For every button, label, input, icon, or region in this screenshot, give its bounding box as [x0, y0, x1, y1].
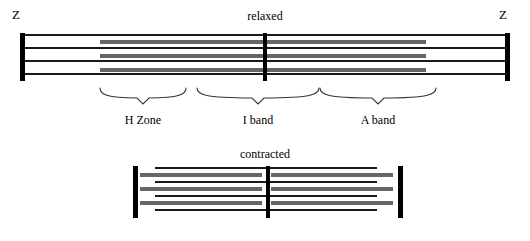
a-band-label: A band: [320, 114, 436, 126]
contracted-z-line-right: [398, 166, 403, 218]
brace-a-band: [320, 88, 436, 104]
z-line-label-left: Z: [12, 8, 20, 21]
z-line-label-right: Z: [499, 8, 507, 21]
thick-filament: [140, 201, 262, 205]
relaxed-z-line-right: [505, 33, 510, 81]
thick-filament: [271, 201, 393, 205]
brace-i-band: [197, 88, 319, 104]
thick-filament: [140, 187, 262, 191]
brace-path: [197, 88, 319, 104]
relaxed-z-line-left: [20, 33, 25, 81]
relaxed-title: relaxed: [190, 10, 340, 22]
thick-filament: [271, 187, 393, 191]
thick-filament: [271, 173, 393, 177]
brace-path: [320, 88, 436, 104]
relaxed-m-line: [263, 33, 267, 81]
sarcomere-figure: relaxed Z Z H ZoneI bandA band contracte…: [0, 0, 530, 241]
i-band-label: I band: [197, 114, 319, 126]
contracted-m-line: [266, 166, 270, 218]
brace-path: [100, 88, 186, 104]
contracted-z-line-left: [133, 166, 138, 218]
thick-filament: [140, 173, 262, 177]
brace-h-zone: [100, 88, 186, 104]
h-zone-label: H Zone: [100, 114, 186, 126]
contracted-title: contracted: [190, 148, 340, 160]
